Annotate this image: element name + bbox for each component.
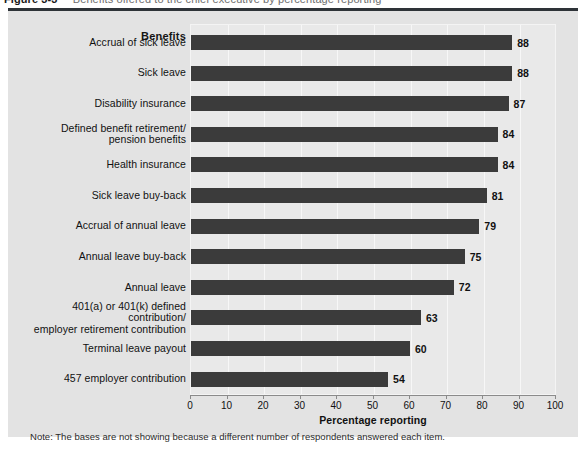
x-axis-tick-label: 60 [394, 400, 424, 411]
bar-row: Disability insurance87 [8, 89, 578, 118]
bar [191, 249, 465, 264]
bar-value-label: 84 [503, 120, 515, 149]
bar [191, 188, 487, 203]
bar [191, 66, 512, 81]
bar-category-label: Accrual of sick leave [16, 28, 186, 57]
bar-value-label: 88 [517, 28, 529, 57]
bar-row: Defined benefit retirement/pension benef… [8, 120, 578, 149]
bar-row: Health insurance84 [8, 150, 578, 179]
figure-title: Benefits offered to the chief executive … [73, 0, 382, 5]
figure-caption: Figure 3-3 Benefits offered to the chief… [0, 0, 584, 7]
bar-value-label: 72 [459, 273, 471, 302]
x-axis-tick [227, 395, 228, 399]
x-axis-tick [409, 395, 410, 399]
figure-note: Note: The bases are not showing because … [30, 431, 445, 442]
bar [191, 219, 479, 234]
chart-panel: Benefits Accrual of sick leave88Sick lea… [8, 11, 578, 437]
bar-category-label: Annual leave [16, 273, 186, 302]
bar [191, 280, 454, 295]
bar-category-label: Sick leave [16, 59, 186, 88]
bar-category-label: 401(a) or 401(k) defined contribution/em… [16, 303, 186, 332]
bar-row: Sick leave buy-back81 [8, 181, 578, 210]
bar-category-label: Health insurance [16, 150, 186, 179]
x-axis-tick-label: 20 [248, 400, 278, 411]
bar-value-label: 75 [470, 242, 482, 271]
x-axis-tick-label: 50 [358, 400, 388, 411]
bar-value-label: 63 [426, 303, 438, 332]
bar-value-label: 79 [484, 212, 496, 241]
bar-row: Terminal leave payout60 [8, 334, 578, 363]
x-axis-tick [482, 395, 483, 399]
bar-category-label: 457 employer contribution [16, 365, 186, 394]
x-axis-tick [446, 395, 447, 399]
bar-row: Accrual of annual leave79 [8, 212, 578, 241]
bar [191, 372, 388, 387]
bar-category-label: Sick leave buy-back [16, 181, 186, 210]
bar-value-label: 87 [514, 89, 526, 118]
x-axis-tick-label: 0 [175, 400, 205, 411]
x-axis-tick [336, 395, 337, 399]
bar [191, 341, 410, 356]
bar [191, 310, 421, 325]
bar-value-label: 60 [415, 334, 427, 363]
bar-row: Annual leave72 [8, 273, 578, 302]
bar-value-label: 84 [503, 150, 515, 179]
bar-category-label: Terminal leave payout [16, 334, 186, 363]
x-axis-tick [373, 395, 374, 399]
x-axis-tick-label: 100 [540, 400, 570, 411]
bar [191, 157, 498, 172]
bar [191, 96, 509, 111]
x-axis-tick-label: 30 [285, 400, 315, 411]
bar-row: 401(a) or 401(k) defined contribution/em… [8, 303, 578, 332]
x-axis-tick [555, 395, 556, 399]
bar-category-label: Defined benefit retirement/pension benef… [16, 120, 186, 149]
bar-value-label: 54 [393, 365, 405, 394]
x-axis-tick-label: 40 [321, 400, 351, 411]
bar-value-label: 81 [492, 181, 504, 210]
bar-category-label: Disability insurance [16, 89, 186, 118]
bar-rows: Accrual of sick leave88Sick leave88Disab… [8, 11, 578, 437]
x-axis-title: Percentage reporting [190, 414, 556, 426]
bar-row: Sick leave88 [8, 59, 578, 88]
bar-value-label: 88 [517, 59, 529, 88]
bar-category-label: Accrual of annual leave [16, 212, 186, 241]
bar-row: Accrual of sick leave88 [8, 28, 578, 57]
x-axis-tick-label: 80 [467, 400, 497, 411]
bar-row: Annual leave buy-back75 [8, 242, 578, 271]
x-axis-tick-label: 70 [431, 400, 461, 411]
bar-row: 457 employer contribution54 [8, 365, 578, 394]
x-axis-tick [519, 395, 520, 399]
x-axis-tick-label: 10 [212, 400, 242, 411]
x-axis-tick [263, 395, 264, 399]
bar [191, 35, 512, 50]
bar [191, 127, 498, 142]
figure-number: Figure 3-3 [4, 0, 58, 5]
figure-root: Figure 3-3 Benefits offered to the chief… [0, 0, 584, 450]
x-axis-tick-label: 90 [504, 400, 534, 411]
x-axis-tick [300, 395, 301, 399]
x-axis-tick [190, 395, 191, 399]
bar-category-label: Annual leave buy-back [16, 242, 186, 271]
